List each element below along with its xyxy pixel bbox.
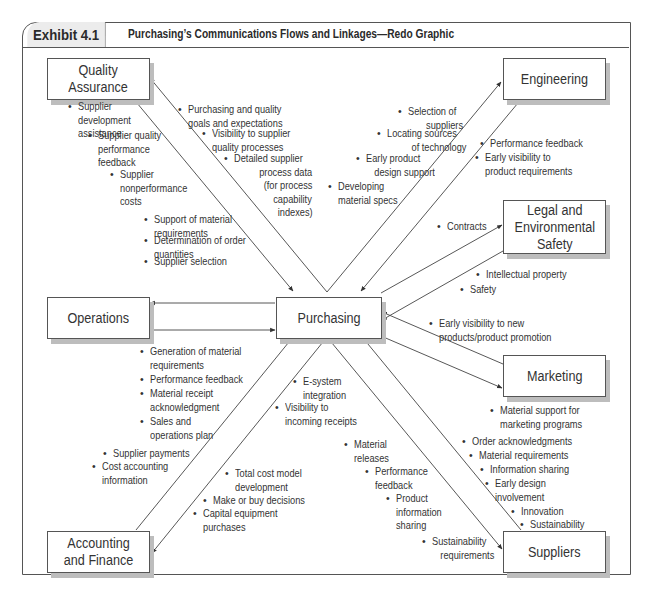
node-legal-environmental-safety: Legal andEnvironmentalSafety bbox=[503, 200, 606, 254]
node-label: Legal and bbox=[514, 202, 595, 219]
note-bullet-item: Supplier selection bbox=[144, 255, 237, 269]
note-line: releases bbox=[354, 452, 389, 466]
note-line: development bbox=[235, 481, 288, 495]
note-line: Determination of order bbox=[154, 234, 246, 248]
note-line: Purchasing and quality bbox=[188, 103, 282, 117]
note-line: Supplier selection bbox=[154, 255, 227, 269]
note-bullet-item: Intellectual property bbox=[476, 268, 578, 282]
note-line: Early design bbox=[495, 477, 546, 491]
note-line: Detailed supplier bbox=[234, 152, 303, 166]
note-line: Material requirements bbox=[479, 449, 568, 463]
note-bullet-item: Materialreleases bbox=[344, 438, 394, 465]
note-line: Material bbox=[354, 438, 387, 452]
note-line: Visibility to supplier bbox=[212, 127, 290, 141]
note-line: Sales and bbox=[150, 415, 191, 429]
note-bullet-item: Material support formarketing programs bbox=[490, 404, 593, 431]
note-bullet-item: Sustainability bbox=[520, 518, 592, 532]
note-bullet-item: Early designinvolvement bbox=[485, 477, 553, 504]
note-line: Locating sources bbox=[387, 127, 457, 141]
note-bullet-item: Safety bbox=[460, 283, 500, 297]
note-line: Contracts bbox=[447, 220, 487, 234]
note-line: Material receipt bbox=[150, 387, 213, 401]
note-line: Selection of bbox=[408, 105, 456, 119]
note-bullet-item: Supplier payments bbox=[103, 447, 200, 461]
note-line: costs bbox=[120, 195, 142, 209]
note-bullet-item: Material requirements bbox=[469, 449, 581, 463]
node-marketing: Marketing bbox=[503, 355, 606, 397]
node-label: Accounting bbox=[64, 535, 133, 552]
note-line: Generation of material bbox=[150, 345, 241, 359]
node-label: Environmental bbox=[514, 219, 595, 236]
node-label: Operations bbox=[68, 310, 130, 327]
note-line: E-system bbox=[303, 375, 342, 389]
node-label: Marketing bbox=[527, 368, 582, 385]
node-quality-assurance: QualityAssurance bbox=[47, 58, 150, 100]
note-bullet-item: Contracts bbox=[437, 220, 492, 234]
note-bullet-item: Visibility to supplierquality processes bbox=[202, 127, 301, 154]
note-bullet-item: Purchasing and qualitygoals and expectat… bbox=[178, 103, 295, 130]
note-line: Supplier payments bbox=[113, 447, 190, 461]
note-bullet-item: Make or buy decisions bbox=[203, 494, 317, 508]
node-label: Purchasing bbox=[297, 310, 360, 327]
note-line: Order acknowledgments bbox=[472, 435, 572, 449]
note-line: feedback bbox=[375, 479, 413, 493]
note-line: process data bbox=[259, 166, 312, 180]
note-line: Performance feedback bbox=[490, 137, 583, 151]
note-bullet-item: Information sharing bbox=[480, 463, 580, 477]
note-line: information bbox=[396, 506, 442, 520]
note-bullet-item: Sales andoperations plan bbox=[140, 415, 222, 442]
note-line: Sustainability bbox=[530, 518, 584, 532]
note-bullet-item: E-systemintegration bbox=[293, 375, 352, 402]
note-line: Support of material bbox=[154, 213, 232, 227]
note-line: requirements bbox=[440, 549, 494, 563]
node-label: Engineering bbox=[521, 71, 588, 88]
note-line: Information sharing bbox=[490, 463, 569, 477]
note-line: Sustainability bbox=[432, 535, 486, 549]
note-line: Make or buy decisions bbox=[213, 494, 305, 508]
note-bullet-item: Productinformationsharing bbox=[386, 492, 448, 533]
note-line: products/product promotion bbox=[439, 331, 551, 345]
note-line: Intellectual property bbox=[486, 268, 567, 282]
note-line: product requirements bbox=[485, 165, 572, 179]
note-line: Developing bbox=[338, 180, 384, 194]
note-bullet-item: Performancefeedback bbox=[365, 465, 435, 492]
note-line: purchases bbox=[203, 521, 246, 535]
note-line: sharing bbox=[396, 519, 426, 533]
note-bullet-item: Locating sourcesof technology bbox=[377, 127, 466, 154]
note-bullet-item: Visibility toincoming receipts bbox=[275, 401, 367, 428]
note-bullet-item: Performance feedback bbox=[480, 137, 596, 151]
note-bullet-item: Early visibility toproduct requirements bbox=[475, 151, 584, 178]
note-bullet-item: Cost accountinginformation bbox=[92, 460, 177, 487]
note-line: information bbox=[102, 474, 148, 488]
note-line: Supplier quality bbox=[98, 129, 161, 143]
note-line: Performance bbox=[375, 465, 428, 479]
note-line: capability bbox=[274, 193, 313, 207]
note-line: requirements bbox=[150, 359, 204, 373]
node-label: Quality bbox=[69, 62, 129, 79]
note-line: Product bbox=[396, 492, 428, 506]
note-bullet-item: Supplier qualityperformancefeedback bbox=[88, 129, 170, 170]
note-bullet-item: Order acknowledgments bbox=[462, 435, 586, 449]
note-line: indexes) bbox=[277, 206, 312, 220]
note-line: nonperformance bbox=[120, 182, 187, 196]
node-suppliers: Suppliers bbox=[503, 531, 606, 573]
note-line: Visibility to bbox=[285, 401, 328, 415]
note-line: Material support for bbox=[500, 404, 580, 418]
note-bullet-item: Detailed supplierprocess data(for proces… bbox=[224, 152, 312, 220]
note-line: material specs bbox=[338, 194, 398, 208]
node-label: Suppliers bbox=[528, 544, 581, 561]
note-line: Early visibility to new bbox=[439, 317, 524, 331]
note-line: (for process bbox=[263, 179, 312, 193]
note-line: Safety bbox=[470, 283, 496, 297]
note-bullet-item: Capital equipmentpurchases bbox=[193, 507, 288, 534]
note-line: Performance feedback bbox=[150, 373, 243, 387]
note-line: Early visibility to bbox=[485, 151, 551, 165]
note-bullet-item: Early visibility to newproducts/product … bbox=[429, 317, 567, 344]
node-operations: Operations bbox=[47, 297, 150, 339]
note-line: integration bbox=[303, 389, 346, 403]
note-bullet-item: Total cost modeldevelopment bbox=[225, 467, 311, 494]
note-line: incoming receipts bbox=[285, 415, 357, 429]
note-bullet-item: Generation of materialrequirements bbox=[140, 345, 254, 372]
node-accounting-finance: Accountingand Finance bbox=[47, 531, 150, 573]
note-line: involvement bbox=[495, 491, 544, 505]
